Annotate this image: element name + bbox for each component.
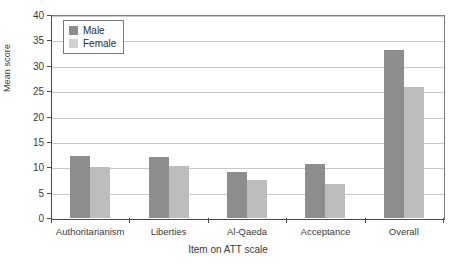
- y-axis-title-text: Mean score: [2, 76, 12, 92]
- x-tick-label: Acceptance: [301, 226, 351, 237]
- y-tick-label: 0: [22, 213, 44, 224]
- legend-item-female: Female: [69, 37, 116, 50]
- x-tick-label: Authoritarianism: [56, 226, 125, 237]
- bar-al-qaeda-female: [247, 180, 267, 218]
- chart-legend: MaleFemale: [63, 20, 124, 54]
- y-tick-label: 20: [22, 111, 44, 122]
- y-tick-label: 40: [22, 10, 44, 21]
- x-tick-mark: [208, 218, 209, 223]
- x-axis-title-text: Item on ATT scale: [188, 244, 268, 255]
- bar-acceptance-female: [325, 184, 345, 219]
- bar-acceptance-male: [305, 164, 325, 218]
- bar-overall-male: [384, 50, 404, 218]
- x-tick-mark: [286, 218, 287, 223]
- legend-swatch-male: [69, 26, 78, 35]
- y-tick-label: 30: [22, 60, 44, 71]
- legend-swatch-female: [69, 39, 78, 48]
- y-tick-label: 10: [22, 162, 44, 173]
- bar-authoritarianism-female: [90, 167, 110, 218]
- legend-item-male: Male: [69, 24, 116, 37]
- x-tick-mark: [443, 218, 444, 223]
- bar-liberties-female: [169, 166, 189, 218]
- x-tick-label: Al-Qaeda: [227, 226, 267, 237]
- x-axis-title: Item on ATT scale: [0, 244, 456, 255]
- y-tick-label: 15: [22, 136, 44, 147]
- x-tick-mark: [365, 218, 366, 223]
- y-tick-label: 35: [22, 35, 44, 46]
- bar-authoritarianism-male: [70, 156, 90, 218]
- bar-liberties-male: [149, 157, 169, 218]
- x-tick-mark: [129, 218, 130, 223]
- bar-chart: Mean score 0510152025303540 Authoritaria…: [0, 0, 456, 268]
- x-tick-label: Overall: [389, 226, 419, 237]
- x-tick-label: Liberties: [151, 226, 187, 237]
- y-axis-title: Mean score: [2, 76, 12, 92]
- legend-label: Male: [83, 25, 105, 36]
- x-tick-mark: [51, 218, 52, 223]
- legend-label: Female: [83, 38, 116, 49]
- bar-overall-female: [404, 87, 424, 218]
- bar-al-qaeda-male: [227, 172, 247, 218]
- y-tick-label: 5: [22, 187, 44, 198]
- y-tick-label: 25: [22, 86, 44, 97]
